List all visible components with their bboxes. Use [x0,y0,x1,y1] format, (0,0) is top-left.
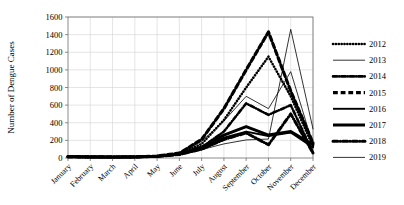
y-tick-label: 400 [50,118,63,128]
y-tick-label: 0 [58,153,62,163]
y-axis-title-group: Number of Dengue Cases [6,41,16,134]
legend-label-2018: 2018 [369,136,386,146]
gridlines [68,17,313,158]
series-line-2012 [68,57,313,157]
series-line-2019 [68,29,313,157]
x-tick-label-april: April [121,162,140,181]
y-tick-label: 1000 [46,65,63,75]
x-axis-ticks: JanuaryFebruaryMarchAprilMayJuneJulyAugu… [49,158,318,193]
series-line-2015 [68,32,313,157]
y-axis-ticks: 02004006008001000120014001600 [46,12,69,163]
y-tick-label: 600 [50,100,63,110]
x-tick-label-june: June [168,162,185,179]
series-line-2013 [68,72,313,158]
y-axis-title: Number of Dengue Cases [6,41,16,134]
legend-label-2016: 2016 [369,104,386,114]
legend-label-2017: 2017 [369,120,386,130]
dengue-cases-line-chart: 02004006008001000120014001600 JanuaryFeb… [0,0,404,205]
x-tick-label-march: March [96,162,117,183]
chart-canvas: 02004006008001000120014001600 JanuaryFeb… [0,0,404,205]
legend-label-2012: 2012 [369,39,386,49]
chart-legend: 20122013201420152016201720182019 [333,39,387,162]
legend-label-2015: 2015 [369,88,386,98]
legend-label-2014: 2014 [369,71,387,81]
y-tick-label: 1200 [46,47,63,57]
legend-label-2019: 2019 [369,152,386,162]
y-tick-label: 200 [50,135,63,145]
legend-label-2013: 2013 [369,55,386,65]
y-tick-label: 1400 [46,30,63,40]
y-tick-label: 1600 [46,12,63,22]
x-tick-label-february: February [68,162,95,189]
x-tick-label-may: May [145,162,162,179]
y-tick-label: 800 [50,83,63,93]
data-series-group [68,29,313,157]
x-tick-label-july: July [191,162,207,178]
